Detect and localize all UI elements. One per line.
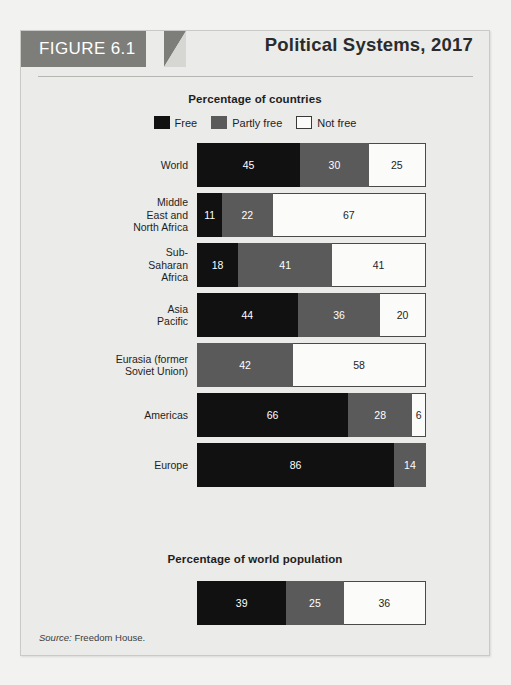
- bar-segment-not-free: 58: [293, 343, 426, 387]
- bar-segment-partly-free: 36: [298, 293, 380, 337]
- bar-segment-value: 22: [242, 209, 254, 221]
- bar-row-label: Sub- Saharan Africa: [21, 246, 197, 284]
- bar-track: 453025: [197, 143, 426, 187]
- bar-segment-partly-free: 42: [197, 343, 293, 387]
- bar-segment-not-free: 67: [273, 193, 426, 237]
- chart-countries: Percentage of countries Free Partly free…: [21, 93, 489, 493]
- bar-track: 184141: [197, 243, 426, 287]
- bar-segment-partly-free: 14: [394, 443, 426, 487]
- bar-segment-value: 66: [267, 409, 279, 421]
- bar-segment-value: 25: [309, 597, 321, 609]
- bar-segment-free: 11: [197, 193, 222, 237]
- figure-number-banner: FIGURE 6.1: [21, 31, 146, 67]
- bar-segment-value: 18: [212, 259, 224, 271]
- bar-segment-not-free: 36: [344, 581, 426, 625]
- figure-number-label: FIGURE 6.1: [39, 39, 136, 59]
- bar-segment-value: 6: [416, 409, 422, 421]
- bar-row: Europe8614: [21, 443, 489, 487]
- bar-segment-free: 39: [197, 581, 286, 625]
- bar-segment-partly-free: 30: [300, 143, 369, 187]
- bar-segment-partly-free: 22: [222, 193, 272, 237]
- bar-segment-partly-free: 25: [286, 581, 343, 625]
- bar-segment-free: 66: [197, 393, 348, 437]
- page-title: Political Systems, 2017: [265, 34, 473, 56]
- bar-segment-partly-free: 28: [348, 393, 412, 437]
- legend-item-not-free: Not free: [296, 116, 356, 129]
- bar-track: 4258: [197, 343, 426, 387]
- legend-swatch-free-icon: [154, 116, 170, 129]
- bar-row: Asia Pacific443620: [21, 293, 489, 337]
- bar-segment-free: 86: [197, 443, 394, 487]
- bar-row: Americas66286: [21, 393, 489, 437]
- bar-segment-value: 42: [239, 359, 251, 371]
- chart-countries-title: Percentage of countries: [21, 93, 489, 105]
- bar-segment-free: 44: [197, 293, 298, 337]
- bar-segment-value: 86: [290, 459, 302, 471]
- figure-header: FIGURE 6.1 Political Systems, 2017: [21, 31, 489, 67]
- bar-segment-not-free: 41: [332, 243, 426, 287]
- bar-rows: World453025Middle East and North Africa1…: [21, 143, 489, 487]
- bar-track: 112267: [197, 193, 426, 237]
- bar-segment-partly-free: 41: [238, 243, 332, 287]
- source-text: Freedom House.: [72, 632, 145, 643]
- bar-segment-value: 11: [204, 209, 215, 221]
- legend-swatch-not-free-icon: [296, 116, 312, 129]
- bar-row-label: World: [21, 159, 197, 172]
- bar-row-label: Europe: [21, 459, 197, 472]
- bar-segment-not-free: 20: [380, 293, 426, 337]
- banner-wedge-light: [164, 31, 186, 67]
- legend-swatch-partly-free-icon: [211, 116, 227, 129]
- bar-segment-value: 44: [242, 309, 254, 321]
- source-note: Source: Freedom House.: [39, 632, 145, 643]
- bar-segment-value: 58: [353, 359, 365, 371]
- bar-segment-not-free: 25: [369, 143, 426, 187]
- bar-row-label: Eurasia (former Soviet Union): [21, 353, 197, 378]
- bar-track: 8614: [197, 443, 426, 487]
- figure-panel: FIGURE 6.1 Political Systems, 2017 Perce…: [20, 30, 490, 656]
- bar-row: Middle East and North Africa112267: [21, 193, 489, 237]
- legend-item-free: Free: [154, 116, 198, 129]
- chart-population-title: Percentage of world population: [21, 553, 489, 565]
- chart-legend: Free Partly free Not free: [21, 116, 489, 129]
- bar-track: 66286: [197, 393, 426, 437]
- bar-row-label: Middle East and North Africa: [21, 196, 197, 234]
- bar-row-label: Americas: [21, 409, 197, 422]
- bar-segment-value: 30: [329, 159, 341, 171]
- chart-population: Percentage of world population 392536: [21, 553, 489, 625]
- bar-row: World453025: [21, 143, 489, 187]
- bar-segment-value: 45: [243, 159, 255, 171]
- bar-track: 443620: [197, 293, 426, 337]
- bar-segment-value: 25: [391, 159, 403, 171]
- source-label: Source:: [39, 632, 72, 643]
- bar-row: Eurasia (former Soviet Union)4258: [21, 343, 489, 387]
- bar-segment-value: 36: [333, 309, 345, 321]
- bar-row-label: Asia Pacific: [21, 303, 197, 328]
- legend-label-free: Free: [175, 117, 198, 129]
- bar-segment-value: 28: [374, 409, 386, 421]
- population-bar-row: 392536: [21, 581, 489, 625]
- bar-segment-value: 14: [404, 459, 416, 471]
- legend-item-partly-free: Partly free: [211, 116, 282, 129]
- header-divider: [38, 76, 473, 77]
- bar-segment-value: 41: [279, 259, 291, 271]
- bar-segment-not-free: 6: [412, 393, 426, 437]
- bar-row: Sub- Saharan Africa184141: [21, 243, 489, 287]
- bar-segment-value: 41: [373, 259, 385, 271]
- bar-segment-value: 39: [236, 597, 248, 609]
- bar-segment-value: 20: [397, 309, 409, 321]
- legend-label-partly-free: Partly free: [232, 117, 282, 129]
- bar-segment-value: 36: [378, 597, 390, 609]
- bar-segment-value: 67: [343, 209, 355, 221]
- population-bar-track: 392536: [197, 581, 426, 625]
- legend-label-not-free: Not free: [317, 117, 356, 129]
- bar-segment-free: 45: [197, 143, 300, 187]
- bar-segment-free: 18: [197, 243, 238, 287]
